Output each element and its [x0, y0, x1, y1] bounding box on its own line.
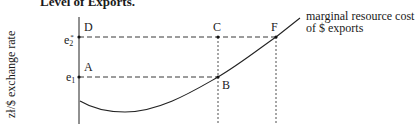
label-c: C	[213, 21, 221, 33]
point-a	[77, 75, 80, 78]
tick-e2-star: e2*	[64, 31, 74, 50]
tick-e1: e1	[66, 71, 75, 87]
point-d	[77, 35, 80, 38]
label-f: F	[271, 21, 278, 33]
point-f	[274, 35, 277, 38]
marginal-resource-cost-curve	[80, 18, 300, 112]
label-d: D	[84, 21, 93, 33]
point-c	[216, 35, 219, 38]
label-b: B	[222, 79, 230, 91]
curve-legend-label: marginal resource cost of $ exports	[306, 10, 414, 34]
point-b	[216, 75, 219, 78]
y-axis-label: zł/$ exchange rate	[4, 31, 19, 118]
label-a: A	[84, 61, 93, 73]
